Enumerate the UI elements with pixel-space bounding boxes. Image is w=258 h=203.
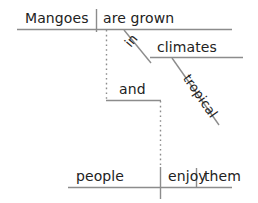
label-preposition-object-climates: climates: [157, 40, 217, 54]
label-second-verb-enjoy: enjoy: [168, 169, 207, 183]
label-subject-mangoes: Mangoes: [25, 11, 89, 25]
label-second-subject-people: people: [76, 169, 124, 183]
label-second-object-them: them: [204, 169, 241, 183]
sentence-diagram: Mangoes are grown in climates tropical a…: [0, 0, 258, 203]
label-predicate-are-grown: are grown: [103, 11, 174, 25]
label-conjunction-and: and: [119, 82, 146, 96]
